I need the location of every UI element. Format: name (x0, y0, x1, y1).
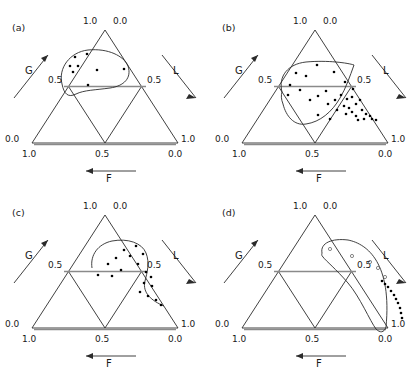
panel-tag-a: (a) (12, 22, 25, 33)
label-left-corner-upper-d: 0.0 (215, 320, 229, 329)
label-right-corner-lower-d: 0.0 (378, 335, 392, 344)
tick-rules (244, 272, 386, 330)
label-left-mid-c: 0.5 (48, 261, 62, 270)
l-axis-arrow (162, 55, 196, 99)
label-f-axis-c: F (106, 359, 112, 368)
label-right-corner-upper-d: 1.0 (391, 320, 405, 329)
label-top-right-value-a: 0.0 (113, 17, 127, 26)
label-right-mid-b: 0.5 (357, 76, 371, 85)
scatter-points (97, 245, 163, 307)
label-g-axis-d: G (235, 251, 243, 260)
label-right-corner-upper-a: 1.0 (181, 135, 195, 144)
label-f-axis-b: F (316, 174, 322, 183)
panel-a: (a) 1.0 0.0 0.5 0.5 0.0 1.0 1.0 0.5 0.0 … (0, 0, 210, 185)
tick-rules (244, 87, 386, 145)
label-top-left-value-d: 1.0 (293, 202, 307, 211)
field-outline (61, 50, 129, 96)
tick-rules (34, 272, 176, 330)
label-right-corner-upper-b: 1.0 (391, 135, 405, 144)
l-axis-arrow (162, 240, 196, 284)
label-l-axis-c: L (173, 251, 179, 260)
g-axis-arrow (14, 55, 48, 98)
label-f-axis-a: F (106, 174, 112, 183)
panel-tag-d: (d) (222, 207, 235, 218)
label-bottom-mid-b: 0.5 (305, 150, 319, 159)
label-f-axis-d: F (316, 359, 322, 368)
label-left-mid-b: 0.5 (258, 76, 272, 85)
midline-left (69, 272, 106, 329)
label-left-corner-lower-b: 1.0 (232, 150, 246, 159)
label-right-corner-lower-b: 0.0 (378, 150, 392, 159)
label-right-mid-d: 0.5 (357, 261, 371, 270)
label-right-corner-lower-a: 0.0 (168, 150, 182, 159)
g-axis-arrow (14, 240, 48, 283)
panel-tag-c: (c) (12, 207, 25, 218)
panel-c: (c) 1.0 0.0 0.5 0.5 0.0 1.0 1.0 0.5 0.0 … (0, 185, 210, 370)
midline-right (105, 272, 142, 329)
field-outline (322, 240, 387, 332)
label-l-axis-a: L (173, 66, 179, 75)
label-bottom-mid-c: 0.5 (95, 335, 109, 344)
midline-right (105, 87, 142, 144)
label-top-left-value-c: 1.0 (83, 202, 97, 211)
label-top-left-value-b: 1.0 (293, 17, 307, 26)
midline-left (279, 87, 316, 144)
label-l-axis-b: L (383, 66, 389, 75)
label-left-corner-lower-d: 1.0 (232, 335, 246, 344)
label-right-mid-c: 0.5 (147, 261, 161, 270)
ternary-diagram-figure: (a) 1.0 0.0 0.5 0.5 0.0 1.0 1.0 0.5 0.0 … (0, 0, 420, 370)
g-axis-arrow (224, 55, 258, 98)
scatter-points (287, 64, 378, 122)
panel-d: (d) 1.0 0.0 0.5 0.5 0.0 1.0 1.0 0.5 0.0 … (210, 185, 420, 370)
label-right-mid-a: 0.5 (147, 76, 161, 85)
label-left-corner-upper-c: 0.0 (5, 320, 19, 329)
g-axis-arrow (224, 240, 258, 283)
label-g-axis-a: G (25, 66, 33, 75)
label-left-corner-lower-a: 1.0 (22, 150, 36, 159)
label-left-corner-upper-b: 0.0 (215, 135, 229, 144)
panel-tag-b: (b) (222, 22, 235, 33)
label-left-mid-d: 0.5 (258, 261, 272, 270)
label-l-axis-d: L (383, 251, 389, 260)
scatter-points (69, 53, 126, 87)
tail-filled-dots (381, 280, 404, 320)
label-right-corner-upper-c: 1.0 (181, 320, 195, 329)
label-left-corner-lower-c: 1.0 (22, 335, 36, 344)
label-top-right-value-d: 0.0 (323, 202, 337, 211)
label-g-axis-b: G (235, 66, 243, 75)
label-top-left-value-a: 1.0 (83, 17, 97, 26)
label-g-axis-c: G (25, 251, 33, 260)
label-top-right-value-c: 0.0 (113, 202, 127, 211)
midline-right (315, 272, 352, 329)
l-axis-arrow (372, 55, 406, 99)
label-bottom-mid-d: 0.5 (305, 335, 319, 344)
tick-rules (34, 87, 176, 145)
label-left-mid-a: 0.5 (48, 76, 62, 85)
panel-b: (b) 1.0 0.0 0.5 0.5 0.0 1.0 1.0 0.5 0.0 … (210, 0, 420, 185)
midline-left (279, 272, 316, 329)
label-left-corner-upper-a: 0.0 (5, 135, 19, 144)
label-top-right-value-b: 0.0 (323, 17, 337, 26)
label-bottom-mid-a: 0.5 (95, 150, 109, 159)
label-right-corner-lower-c: 0.0 (168, 335, 182, 344)
